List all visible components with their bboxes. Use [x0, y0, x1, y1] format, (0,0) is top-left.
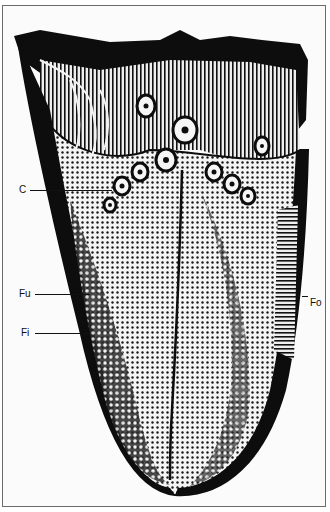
label-foliate: Fo [310, 298, 322, 308]
label-fungiform: Fu [19, 289, 31, 299]
tongue-illustration [0, 0, 330, 512]
leader-line-fu [35, 294, 90, 295]
leader-line-c [30, 190, 112, 191]
label-circumvallate: C [19, 185, 26, 195]
foliate-papillae [274, 205, 298, 360]
leader-line-fi [35, 333, 90, 334]
leader-line-fo [302, 296, 308, 297]
label-filiform: Fi [21, 328, 29, 338]
